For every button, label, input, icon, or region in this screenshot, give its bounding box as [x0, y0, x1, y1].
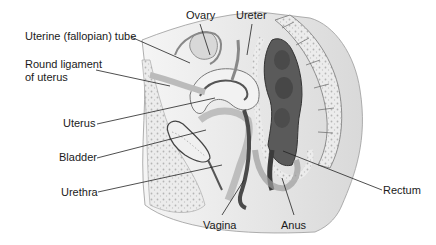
leader-vagina — [222, 180, 244, 215]
leader-rectum — [283, 151, 382, 190]
label-urethra: Urethra — [61, 186, 98, 199]
label-anus: Anus — [281, 219, 306, 232]
label-uterus: Uterus — [63, 117, 95, 130]
label-round-ligament: Round ligament of uterus — [25, 58, 102, 84]
label-ovary: Ovary — [186, 9, 215, 22]
anatomy-diagram: Ovary Ureter Uterine (fallopian) tube Ro… — [0, 0, 436, 245]
leader-ureter — [247, 24, 252, 55]
label-vagina: Vagina — [203, 219, 236, 232]
label-rectum: Rectum — [383, 184, 421, 197]
leader-round-ligament — [96, 70, 170, 86]
leader-uterine-tube — [131, 37, 190, 63]
leader-uterus — [97, 98, 215, 124]
leader-ovary — [200, 24, 210, 55]
leader-urethra — [98, 165, 222, 192]
label-bladder: Bladder — [59, 151, 97, 164]
leader-bladder — [97, 130, 206, 158]
leader-anus — [282, 178, 294, 215]
label-uterine-tube: Uterine (fallopian) tube — [25, 30, 136, 43]
label-ureter: Ureter — [236, 9, 267, 22]
